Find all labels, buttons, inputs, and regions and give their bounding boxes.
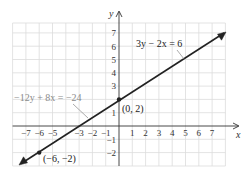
- point-0-2: [117, 97, 121, 101]
- svg-text:1: 1: [112, 108, 117, 118]
- x-tick-labels: −7 −6 −5 −3 −2 −1 1 2 3 4 5 6 7: [21, 128, 215, 138]
- point-label-0-2: (0, 2): [122, 103, 144, 115]
- svg-text:4: 4: [112, 68, 117, 78]
- svg-text:1: 1: [130, 128, 135, 138]
- coordinate-plane: x y −7 −6 −5 −3 −2 −1 1 2 3 4 5 6 7 7 6 …: [0, 0, 246, 178]
- svg-text:2: 2: [143, 128, 148, 138]
- svg-text:4: 4: [170, 128, 175, 138]
- svg-text:3: 3: [157, 128, 162, 138]
- eq1-leader-line: [177, 50, 184, 59]
- y-axis-label: y: [108, 8, 114, 19]
- point-m6-m2: [37, 150, 41, 154]
- svg-text:−6: −6: [34, 128, 44, 138]
- svg-text:−1: −1: [106, 135, 116, 145]
- axes: [13, 11, 239, 166]
- svg-text:−3: −3: [74, 128, 84, 138]
- svg-text:3: 3: [112, 81, 117, 91]
- y-tick-labels: 7 6 5 4 3 1 −1 −2: [106, 28, 116, 158]
- svg-text:5: 5: [112, 55, 117, 65]
- svg-text:5: 5: [183, 128, 188, 138]
- x-axis-label: x: [235, 129, 241, 140]
- equation-label-1: 3y − 2x = 6: [136, 38, 182, 49]
- svg-text:−2: −2: [88, 128, 98, 138]
- svg-text:−7: −7: [21, 128, 31, 138]
- svg-text:−5: −5: [48, 128, 58, 138]
- point-label-m6-m2: (−6, −2): [43, 153, 76, 165]
- svg-text:7: 7: [210, 128, 215, 138]
- eq2-leader-line: [73, 104, 88, 118]
- svg-text:7: 7: [112, 28, 117, 38]
- svg-text:−2: −2: [106, 148, 116, 158]
- svg-text:6: 6: [112, 42, 117, 52]
- equation-label-2: −12y + 8x = −24: [14, 92, 82, 103]
- svg-text:6: 6: [197, 128, 202, 138]
